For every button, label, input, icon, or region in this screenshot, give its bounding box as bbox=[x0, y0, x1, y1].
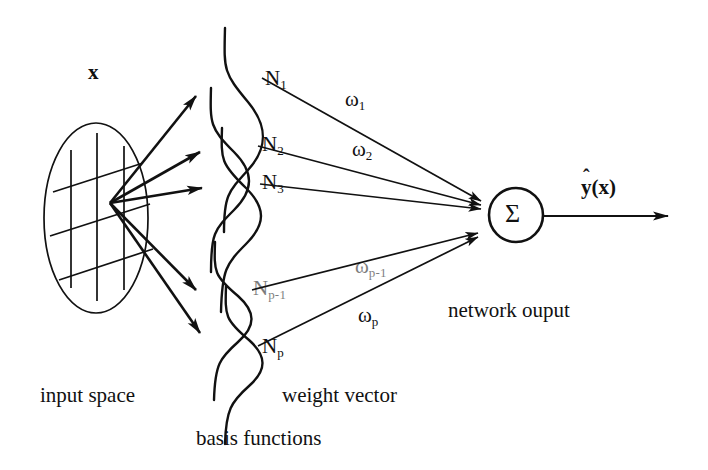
basis-node-base-p-minus-1: N bbox=[253, 276, 268, 300]
basis-node-label-1: N1 bbox=[265, 68, 287, 91]
weight-vector-caption: weight vector bbox=[282, 385, 397, 406]
basis-node-base-3: N bbox=[262, 170, 277, 194]
weight-sub-p-minus-1: p-1 bbox=[369, 265, 387, 280]
basis-function-curves bbox=[211, 28, 263, 444]
weight-base-p-minus-1: ω bbox=[355, 254, 369, 278]
basis-node-label-p-minus-1: Np-1 bbox=[253, 278, 286, 301]
basis-node-label-p: Np bbox=[262, 336, 284, 359]
weight-sub-1: 1 bbox=[359, 98, 366, 113]
basis-functions-caption: basis functions bbox=[196, 428, 321, 449]
hat-accent-icon: ˆ bbox=[583, 168, 590, 188]
basis-node-base-1: N bbox=[265, 66, 280, 90]
input-arrow-4 bbox=[110, 203, 196, 290]
input-arrow-1 bbox=[110, 96, 196, 203]
output-argument: (x) bbox=[592, 175, 617, 199]
weight-base-1: ω bbox=[345, 87, 359, 111]
weight-label-1: ω1 bbox=[345, 89, 366, 112]
basis-curve-p bbox=[225, 286, 263, 444]
network-output-caption: network ouput bbox=[448, 300, 570, 321]
basis-node-base-2: N bbox=[262, 132, 277, 156]
input-space-ellipse bbox=[44, 123, 148, 313]
weight-base-p: ω bbox=[358, 303, 372, 327]
basis-node-sub-1: 1 bbox=[280, 77, 287, 92]
basis-node-base-p: N bbox=[262, 334, 277, 358]
weight-base-2: ω bbox=[352, 137, 366, 161]
weight-label-p-minus-1: ωp-1 bbox=[355, 256, 387, 279]
weight-label-2: ω2 bbox=[352, 139, 373, 162]
summation-symbol: Σ bbox=[505, 201, 520, 227]
input-space-caption: input space bbox=[40, 385, 135, 406]
basis-node-label-2: N2 bbox=[262, 134, 284, 157]
weight-sub-2: 2 bbox=[366, 148, 373, 163]
basis-node-label-3: N3 bbox=[262, 172, 284, 195]
y-hat-glyph: ˆy bbox=[581, 177, 592, 198]
basis-node-sub-p-minus-1: p-1 bbox=[268, 287, 286, 302]
basis-node-sub-2: 2 bbox=[277, 143, 284, 158]
input-vector-label: x bbox=[88, 62, 99, 83]
basis-node-sub-3: 3 bbox=[277, 181, 284, 196]
basis-curve-2 bbox=[211, 88, 249, 272]
basis-node-sub-p: p bbox=[277, 345, 284, 360]
weight-label-p: ωp bbox=[358, 305, 379, 328]
basis-curve-p-minus-1 bbox=[214, 242, 252, 400]
weight-sub-p: p bbox=[372, 314, 379, 329]
network-output-label: ˆy(x) bbox=[581, 177, 616, 198]
figure-canvas: x input space N1 N2 N3 Np-1 Np basis fun… bbox=[0, 0, 708, 470]
